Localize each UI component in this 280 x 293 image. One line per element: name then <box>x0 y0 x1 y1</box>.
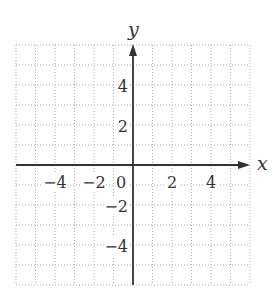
coordinate-plane: −4−2024 42−2−4 x y <box>0 0 280 293</box>
y-tick-labels: 42−2−4 <box>104 76 129 256</box>
y-axis-label: y <box>127 18 139 40</box>
y-tick-label: 4 <box>118 77 128 96</box>
y-tick-label: −2 <box>104 197 128 216</box>
x-axis-arrow-icon <box>238 161 250 169</box>
x-axis-label: x <box>257 152 268 174</box>
x-tick-label: 0 <box>116 173 126 192</box>
x-tick-label: −4 <box>43 173 67 192</box>
x-tick-label: −2 <box>82 173 106 192</box>
y-axis-arrow-icon <box>129 44 137 56</box>
x-tick-label: 4 <box>206 173 216 192</box>
x-tick-label: 2 <box>167 173 177 192</box>
y-tick-label: −4 <box>104 237 128 256</box>
axes <box>16 44 250 285</box>
y-tick-label: 2 <box>118 117 128 136</box>
